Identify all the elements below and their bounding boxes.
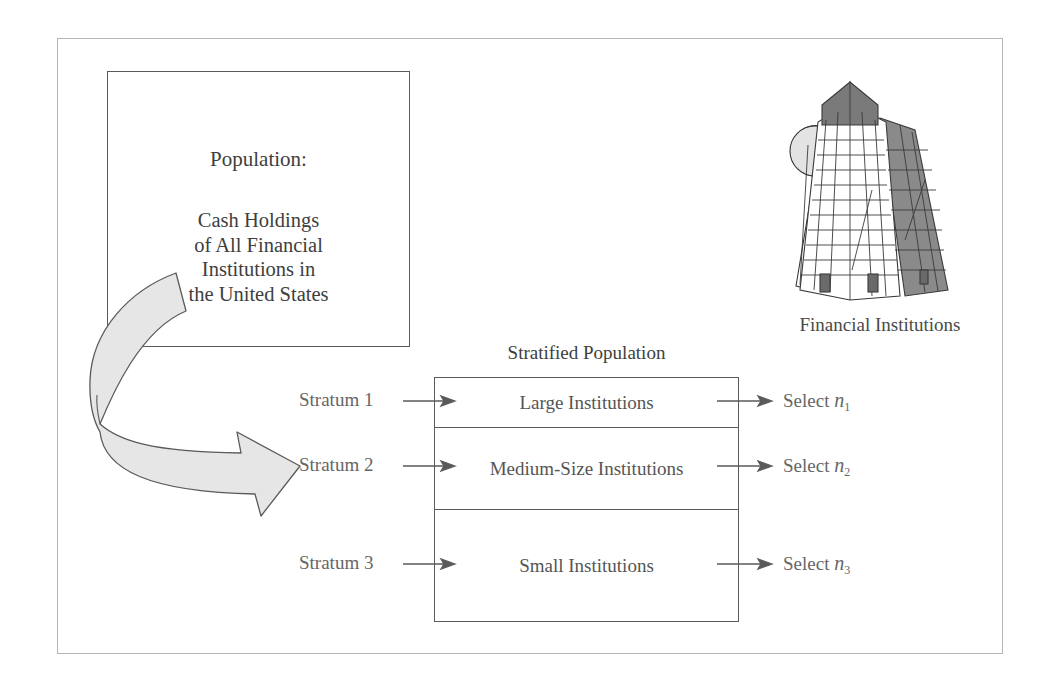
- sample-subscript: 1: [844, 400, 850, 414]
- sample-subscript: 2: [844, 465, 850, 479]
- stratum-row-medium: Medium-Size Institutions: [435, 428, 738, 510]
- office-building-icon: [790, 82, 948, 300]
- select-prefix: Select: [783, 455, 829, 476]
- stratum-label: Stratum 2: [299, 454, 373, 476]
- stratum-label: Stratum 3: [299, 552, 373, 574]
- stratified-title: Stratified Population: [434, 342, 739, 364]
- curved-arrow-icon: [90, 273, 300, 516]
- sample-variable: n: [834, 454, 844, 476]
- stratum-row-large: Large Institutions: [435, 378, 738, 428]
- sample-variable: n: [834, 389, 844, 411]
- stratum-group-label: Medium-Size Institutions: [490, 458, 684, 480]
- stratified-box: Large Institutions Medium-Size Instituti…: [434, 377, 739, 622]
- stratum-row-small: Small Institutions: [435, 510, 738, 621]
- stratum-group-label: Small Institutions: [519, 555, 654, 577]
- select-prefix: Select: [783, 390, 829, 411]
- select-sample-label: Select n2: [783, 454, 850, 480]
- select-prefix: Select: [783, 553, 829, 574]
- stratum-group-label: Large Institutions: [519, 392, 653, 414]
- select-sample-label: Select n3: [783, 552, 850, 578]
- building-label: Financial Institutions: [775, 314, 985, 336]
- select-sample-label: Select n1: [783, 389, 850, 415]
- stratum-label: Stratum 1: [299, 389, 373, 411]
- sample-subscript: 3: [844, 563, 850, 577]
- sample-variable: n: [834, 552, 844, 574]
